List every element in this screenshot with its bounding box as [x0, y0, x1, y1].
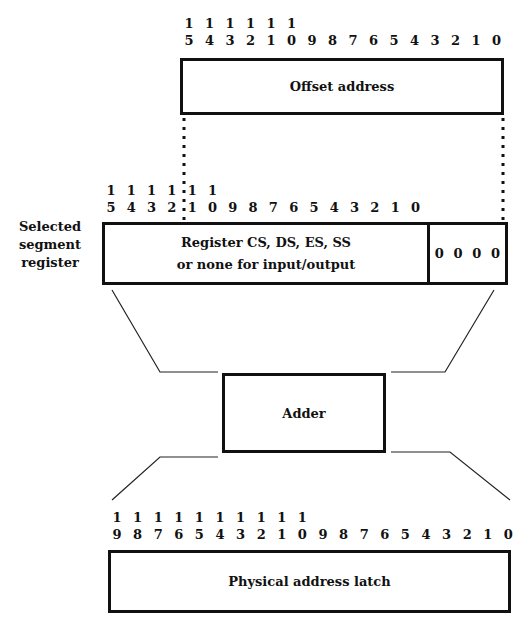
- bit-number-tens: 1: [244, 16, 258, 32]
- bit-number-units: 5: [182, 33, 196, 49]
- bit-number-units: 0: [285, 33, 299, 49]
- bit-number-units: 8: [131, 527, 145, 543]
- bit-number-units: 2: [368, 200, 382, 216]
- bit-number-units: 7: [151, 527, 165, 543]
- bit-number-tens: 1: [124, 183, 138, 199]
- bit-number-units: 9: [316, 527, 330, 543]
- bit-number-units: 3: [234, 527, 248, 543]
- bit-number-units: 0: [490, 33, 504, 49]
- bit-number-units: 0: [409, 200, 423, 216]
- bit-number-tens: 1: [165, 183, 179, 199]
- bit-number-units: 1: [275, 527, 289, 543]
- bit-number-units: 2: [244, 33, 258, 49]
- bit-number-tens: 1: [254, 510, 268, 526]
- bit-number-units: 4: [327, 200, 341, 216]
- offset-bit-numbers: 1514131211109876543210: [182, 16, 512, 50]
- physical-address-latch-label: Physical address latch: [228, 574, 390, 589]
- bit-number-tens: 1: [145, 183, 159, 199]
- bit-number-units: 9: [110, 527, 124, 543]
- physical-address-latch-box: Physical address latch: [108, 550, 511, 613]
- adder-box: Adder: [222, 373, 386, 453]
- bit-number-units: 6: [367, 33, 381, 49]
- bit-number-units: 1: [388, 200, 402, 216]
- bit-number-tens: 1: [172, 510, 186, 526]
- bit-number-units: 5: [104, 200, 118, 216]
- segment-bit-numbers: 1514131211109876543210: [104, 183, 434, 217]
- bit-number-units: 5: [192, 527, 206, 543]
- bit-number-tens: 1: [110, 510, 124, 526]
- bit-number-units: 4: [419, 527, 433, 543]
- bit-number-units: 4: [408, 33, 422, 49]
- segment-register-box: Register CS, DS, ES, SS or none for inpu…: [102, 222, 508, 285]
- bit-number-tens: 1: [234, 510, 248, 526]
- bit-number-tens: 1: [131, 510, 145, 526]
- bit-number-units: 1: [264, 33, 278, 49]
- bit-number-tens: 1: [203, 16, 217, 32]
- bit-number-tens: 1: [206, 183, 220, 199]
- bit-number-units: 2: [165, 200, 179, 216]
- bit-number-units: 0: [501, 527, 515, 543]
- offset-address-box: Offset address: [180, 58, 504, 115]
- bit-number-units: 7: [357, 527, 371, 543]
- bit-number-units: 4: [124, 200, 138, 216]
- bit-number-units: 5: [307, 200, 321, 216]
- bit-number-tens: 1: [295, 510, 309, 526]
- bit-number-tens: 1: [192, 510, 206, 526]
- bit-number-tens: 1: [275, 510, 289, 526]
- selected-segment-register-label: Selected segment register: [6, 218, 94, 272]
- appended-zero-bits: 0 0 0 0: [430, 225, 505, 282]
- bit-number-units: 3: [428, 33, 442, 49]
- bit-number-units: 8: [337, 527, 351, 543]
- bit-number-units: 5: [398, 527, 412, 543]
- bit-number-units: 0: [295, 527, 309, 543]
- segment-register-text: Register CS, DS, ES, SS or none for inpu…: [105, 232, 427, 276]
- bit-number-units: 8: [326, 33, 340, 49]
- bit-number-units: 0: [206, 200, 220, 216]
- bit-number-tens: 1: [182, 16, 196, 32]
- bit-number-units: 6: [172, 527, 186, 543]
- bit-number-units: 4: [213, 527, 227, 543]
- bit-number-tens: 1: [185, 183, 199, 199]
- bit-number-units: 9: [226, 200, 240, 216]
- bit-number-units: 7: [266, 200, 280, 216]
- bit-number-units: 6: [378, 527, 392, 543]
- bit-number-units: 9: [305, 33, 319, 49]
- bit-number-units: 7: [346, 33, 360, 49]
- bit-number-tens: 1: [213, 510, 227, 526]
- bit-number-units: 3: [440, 527, 454, 543]
- bit-number-units: 2: [449, 33, 463, 49]
- bit-number-units: 1: [481, 527, 495, 543]
- physical-bit-numbers: 191817161514131211109876543210: [110, 510, 520, 544]
- offset-address-label: Offset address: [290, 79, 394, 94]
- bit-number-tens: 1: [104, 183, 118, 199]
- bit-number-units: 3: [145, 200, 159, 216]
- bit-number-tens: 1: [264, 16, 278, 32]
- bit-number-units: 3: [223, 33, 237, 49]
- bit-number-units: 3: [348, 200, 362, 216]
- bit-number-units: 5: [387, 33, 401, 49]
- bit-number-units: 4: [203, 33, 217, 49]
- adder-label: Adder: [282, 406, 325, 421]
- bit-number-units: 2: [254, 527, 268, 543]
- bit-number-units: 6: [287, 200, 301, 216]
- bit-number-units: 8: [246, 200, 260, 216]
- bit-number-tens: 1: [151, 510, 165, 526]
- bit-number-units: 1: [185, 200, 199, 216]
- bit-number-units: 1: [469, 33, 483, 49]
- bit-number-tens: 1: [223, 16, 237, 32]
- bit-number-tens: 1: [285, 16, 299, 32]
- bit-number-units: 2: [460, 527, 474, 543]
